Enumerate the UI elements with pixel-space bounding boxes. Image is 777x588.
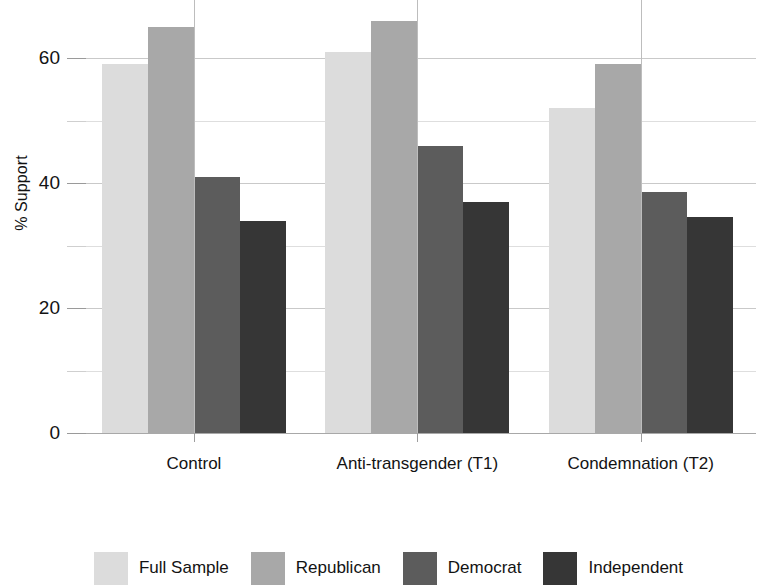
legend-swatch	[403, 552, 437, 585]
y-axis-tick-label: 0	[49, 422, 60, 444]
legend-label: Full Sample	[139, 558, 229, 578]
y-axis-tick-minor	[67, 246, 86, 247]
legend-label: Republican	[296, 558, 381, 578]
y-axis-tick	[67, 58, 86, 59]
x-axis-tick-label: Condemnation (T2)	[567, 454, 713, 474]
legend-item[interactable]: Independent	[543, 552, 683, 585]
y-axis-tick	[67, 183, 86, 184]
legend-label: Independent	[588, 558, 683, 578]
y-axis-tick-minor	[67, 371, 86, 372]
bar	[148, 27, 194, 433]
y-axis-title: % Support	[13, 83, 31, 303]
x-axis-tick-label: Control	[167, 454, 222, 474]
group-separator	[194, 0, 195, 433]
group-separator	[417, 0, 418, 433]
y-axis-tick-label: 20	[39, 297, 60, 319]
legend-item[interactable]: Democrat	[403, 552, 522, 585]
x-axis-baseline	[86, 433, 756, 434]
legend-label: Democrat	[448, 558, 522, 578]
y-axis-tick-label: 40	[39, 172, 60, 194]
legend-swatch	[94, 552, 128, 585]
y-axis-tick-label: 60	[39, 47, 60, 69]
x-axis-tick-label: Anti-transgender (T1)	[337, 454, 499, 474]
group-separator	[641, 0, 642, 433]
x-axis-tick	[194, 433, 195, 442]
bar	[549, 108, 595, 433]
x-axis-tick	[417, 433, 418, 442]
bar	[417, 146, 463, 434]
bar	[194, 177, 240, 433]
bar	[641, 192, 687, 433]
x-axis-tick	[641, 433, 642, 442]
bar	[325, 52, 371, 433]
legend-swatch	[543, 552, 577, 585]
bar	[595, 64, 641, 433]
legend-item[interactable]: Full Sample	[94, 552, 229, 585]
y-axis-tick	[67, 308, 86, 309]
legend-swatch	[251, 552, 285, 585]
y-axis-tick	[67, 433, 86, 434]
bar	[463, 202, 509, 433]
chart-legend: Full SampleRepublicanDemocratIndependent	[0, 548, 777, 588]
bar	[240, 221, 286, 434]
bar	[371, 21, 417, 434]
legend-item[interactable]: Republican	[251, 552, 381, 585]
plot-area: 0204060ControlAnti-transgender (T1)Conde…	[86, 8, 756, 433]
y-axis-tick-minor	[67, 121, 86, 122]
bar-chart-figure: % Support 0204060ControlAnti-transgender…	[0, 0, 777, 588]
bar	[687, 217, 733, 433]
bar	[102, 64, 148, 433]
